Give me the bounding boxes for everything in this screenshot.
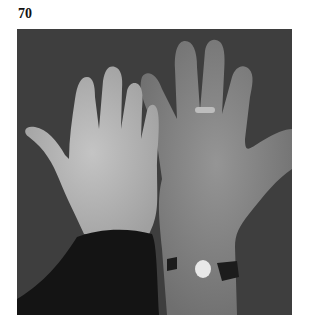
wristband-clasp (195, 260, 211, 278)
figure-number: 70 (18, 6, 32, 22)
ring (195, 107, 215, 113)
hands-photograph (17, 29, 292, 315)
hands-illustration (17, 29, 292, 315)
